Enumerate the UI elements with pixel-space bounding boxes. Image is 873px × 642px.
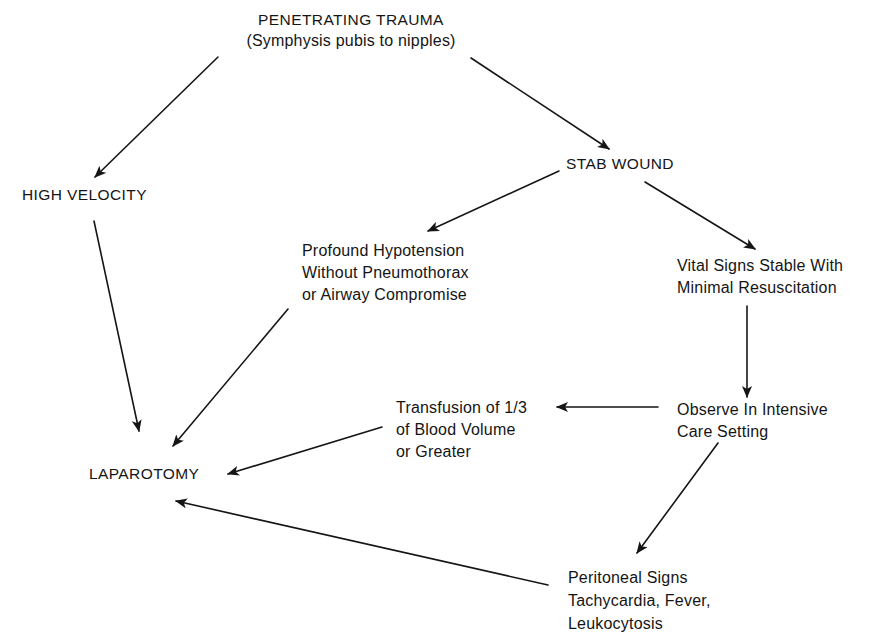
node-text-line: Transfusion of 1/3 bbox=[396, 397, 527, 419]
node-text-line: HIGH VELOCITY bbox=[22, 184, 147, 205]
edge-transfusion-to-laparotomy bbox=[228, 427, 382, 474]
node-profound-hypotension: Profound Hypotension Without Pneumothora… bbox=[302, 240, 469, 306]
node-text-line: Peritoneal Signs bbox=[568, 566, 711, 589]
edge-observe-to-peritoneal bbox=[637, 443, 718, 553]
node-peritoneal-signs: Peritoneal Signs Tachycardia, Fever, Leu… bbox=[568, 566, 711, 635]
node-high-velocity: HIGH VELOCITY bbox=[22, 184, 147, 205]
node-text-line: Leukocytosis bbox=[568, 612, 711, 635]
node-text-line: Minimal Resuscitation bbox=[677, 277, 843, 299]
edge-trauma-to-high-velocity bbox=[95, 57, 218, 177]
node-stab-wound: STAB WOUND bbox=[566, 153, 674, 174]
edge-stab-to-vital-signs bbox=[645, 182, 755, 249]
flowchart-canvas: PENETRATING TRAUMA (Symphysis pubis to n… bbox=[0, 0, 873, 642]
edge-high-velocity-to-laparotomy bbox=[94, 221, 139, 431]
node-text-line: of Blood Volume bbox=[396, 419, 527, 441]
node-text-line: Without Pneumothorax bbox=[302, 262, 469, 284]
edges-layer bbox=[0, 0, 873, 642]
node-observe-icu: Observe In Intensive Care Setting bbox=[677, 399, 828, 443]
node-penetrating-trauma: PENETRATING TRAUMA (Symphysis pubis to n… bbox=[222, 9, 480, 51]
node-text-line: Vital Signs Stable With bbox=[677, 255, 843, 277]
node-text-line: LAPAROTOMY bbox=[89, 463, 199, 484]
edge-profound-to-laparotomy bbox=[173, 309, 288, 446]
node-transfusion: Transfusion of 1/3 of Blood Volume or Gr… bbox=[396, 397, 527, 463]
edge-stab-to-profound-hypotension bbox=[428, 171, 559, 231]
node-text-line: Care Setting bbox=[677, 421, 828, 443]
node-text-line: Tachycardia, Fever, bbox=[568, 589, 711, 612]
node-text-line: PENETRATING TRAUMA bbox=[222, 9, 480, 30]
node-text-line: Profound Hypotension bbox=[302, 240, 469, 262]
node-text-line: or Airway Compromise bbox=[302, 284, 469, 306]
node-laparotomy: LAPAROTOMY bbox=[89, 463, 199, 484]
edge-peritoneal-to-laparotomy bbox=[176, 501, 548, 585]
node-vital-signs-stable: Vital Signs Stable With Minimal Resuscit… bbox=[677, 255, 843, 299]
edge-trauma-to-stab-wound bbox=[471, 58, 609, 149]
node-text-line: STAB WOUND bbox=[566, 153, 674, 174]
node-text-line: or Greater bbox=[396, 441, 527, 463]
node-text-line: (Symphysis pubis to nipples) bbox=[222, 30, 480, 51]
node-text-line: Observe In Intensive bbox=[677, 399, 828, 421]
